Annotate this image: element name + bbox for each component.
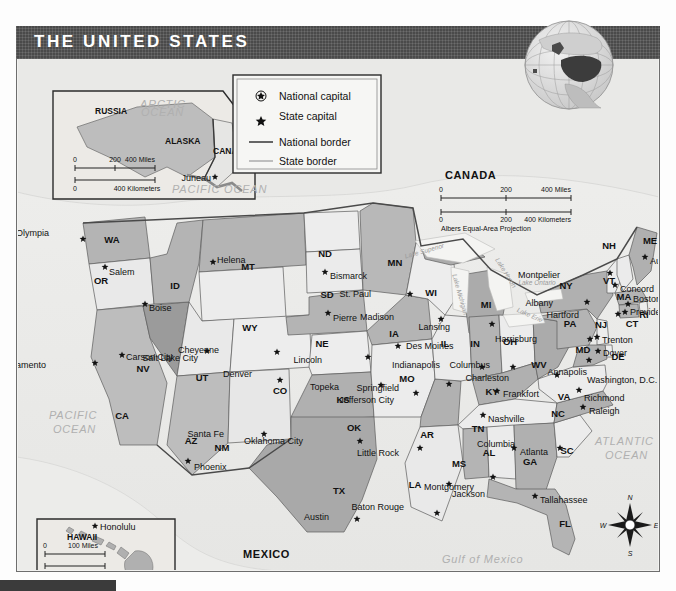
state-abbr-SD: SD (320, 289, 333, 300)
state-abbr-MA: MA (617, 291, 632, 302)
capital-label-MA: Boston (633, 294, 659, 304)
capital-label-MD: Annapolis (547, 367, 587, 377)
legend-label-state-capital-star: State capital (279, 110, 337, 122)
capital-label-ND: Bismarck (330, 271, 368, 281)
capital-label-OR: Salem (109, 267, 135, 277)
state-abbr-SC: SC (560, 445, 573, 456)
state-abbr-NE: NE (315, 338, 328, 349)
state-abbr-LA: LA (409, 479, 422, 490)
capital-label-IL: Springfield (356, 383, 399, 393)
capital-label-NV: Carson City (126, 352, 174, 362)
capital-label-ID: Boise (149, 303, 172, 313)
legend-label-national-capital-star-circle: National capital (279, 90, 351, 102)
state-abbr-MN: MN (388, 257, 403, 268)
globe-locator-inset (509, 18, 629, 113)
capital-label-NE: Lincoln (293, 355, 322, 365)
state-abbr-MI: MI (481, 299, 492, 310)
water-label-1: OCEAN (53, 423, 96, 435)
bottom-accent-bar (0, 580, 116, 591)
alaska-label-alaska: ALASKA (165, 136, 200, 146)
hawaii-inset[interactable]: HAWAIIPACIFIC OCEANHonolulu0100 Miles010… (37, 519, 175, 571)
state-abbr-OR: OR (94, 275, 108, 286)
capital-label-MS: Jackson (452, 489, 485, 499)
state-abbr-WI: WI (425, 287, 437, 298)
capital-label-honolulu: Honolulu (100, 522, 136, 532)
legend-label-state-border-line: State border (279, 155, 337, 167)
state-abbr-NH: NH (602, 240, 616, 251)
compass-label-e: E (654, 522, 659, 529)
state-abbr-AL: AL (483, 447, 496, 458)
projection-label: Albers Equal-Area Projection (441, 225, 531, 233)
state-abbr-CO: CO (273, 385, 287, 396)
water-label-3: OCEAN (605, 449, 648, 461)
capital-label-juneau: Juneau (181, 173, 211, 183)
scale-km-tick-0: 0 (439, 216, 443, 223)
capital-label-OK: Oklahoma City (244, 436, 304, 446)
state-abbr-ME: ME (643, 235, 657, 246)
state-abbr-MO: MO (399, 373, 414, 384)
state-abbr-VA: VA (558, 391, 571, 402)
capital-label-MO: Jefferson City (339, 395, 394, 405)
label-washington-dc: Washington, D.C. (587, 375, 657, 385)
hawaii-scale-miles-1: 100 Miles (68, 542, 98, 549)
state-shape-ND (304, 211, 360, 252)
scale-km-tick-2: 400 Kilometers (524, 216, 571, 223)
state-abbr-WA: WA (104, 234, 119, 245)
state-abbr-UT: UT (196, 372, 209, 383)
scale-km-tick-1: 200 (500, 216, 512, 223)
hawaii-on-globe (533, 69, 537, 73)
capital-label-CT: Hartford (546, 310, 579, 320)
state-abbr-FL: FL (559, 518, 571, 529)
scale-miles-tick-0: 0 (439, 186, 443, 193)
scale-miles-tick-1: 200 (500, 186, 512, 193)
capital-label-CO: Denver (223, 369, 252, 379)
map-legend[interactable]: National capitalState capitalNational bo… (233, 75, 381, 173)
capital-label-PA: Harrisburg (495, 334, 537, 344)
capital-label-FL: Tallahassee (540, 495, 588, 505)
state-abbr-AR: AR (420, 429, 434, 440)
country-label-mexico: MEXICO (243, 548, 290, 560)
state-abbr-WY: WY (242, 322, 258, 333)
scale-miles-tick-2: 400 Miles (541, 186, 571, 193)
state-abbr-TX: TX (333, 485, 346, 496)
capital-label-KY: Frankfort (503, 389, 540, 399)
capital-label-LA: Baton Rouge (351, 502, 404, 512)
alaska-label-russia: RUSSIA (95, 106, 127, 116)
capital-label-WA: Olympia (17, 228, 49, 238)
capital-label-CA: Sacramento (17, 360, 46, 370)
capital-label-AZ: Phoenix (194, 462, 227, 472)
capital-label-GA: Atlanta (520, 447, 548, 457)
state-abbr-OK: OK (347, 422, 361, 433)
state-abbr-IN: IN (470, 338, 480, 349)
capital-label-VA: Richmond (584, 393, 625, 403)
capital-label-SD: Pierre (333, 313, 357, 323)
capital-label-TN: Nashville (488, 414, 525, 424)
state-abbr-NC: NC (551, 408, 565, 419)
water-label-2: ATLANTIC (594, 435, 654, 447)
state-abbr-NJ: NJ (595, 319, 607, 330)
alaska-label-pacific-ocean: PACIFIC OCEAN (172, 183, 267, 195)
hawaii-label-hawaii: HAWAII (67, 532, 97, 542)
state-abbr-IA: IA (389, 328, 399, 339)
capital-label-AR: Little Rock (357, 448, 400, 458)
alaska-scale-miles-0: 0 (73, 156, 77, 163)
state-abbr-WV: WV (531, 359, 547, 370)
water-label-0: PACIFIC (49, 409, 97, 421)
legend-label-national-border-line: National border (279, 136, 351, 148)
state-abbr-NY: NY (559, 280, 573, 291)
state-abbr-CT: CT (626, 318, 639, 329)
capital-label-DE: Dover (603, 348, 627, 358)
state-abbr-TN: TN (472, 423, 485, 434)
capital-label-MN: St. Paul (339, 289, 371, 299)
hawaii-scale-miles-0: 0 (43, 542, 47, 549)
state-abbr-CA: CA (115, 410, 129, 421)
capital-label-IN: Indianapolis (392, 360, 441, 370)
state-abbr-ID: ID (170, 280, 180, 291)
water-label-4: Gulf of Mexico (442, 553, 524, 565)
alaska-scale-miles-2: 400 Miles (125, 156, 155, 163)
capital-label-TX: Austin (304, 512, 329, 522)
alaska-label-ocean: OCEAN (141, 106, 184, 118)
state-abbr-IL: IL (441, 338, 450, 349)
capital-label-NJ: Trenton (602, 335, 633, 345)
state-abbr-AZ: AZ (185, 435, 198, 446)
